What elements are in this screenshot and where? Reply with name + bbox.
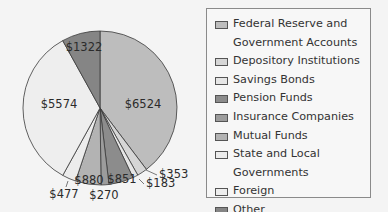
leader-line <box>139 179 144 184</box>
legend-swatch <box>215 151 228 159</box>
legend-swatch <box>215 21 228 29</box>
slice-value-label: $477 <box>49 187 78 201</box>
legend-label: Foreign <box>233 182 274 201</box>
legend-swatch <box>215 77 228 85</box>
legend-item-foreign: Foreign <box>215 182 366 201</box>
legend-label: Mutual Funds <box>233 127 308 146</box>
legend-swatch <box>215 207 228 212</box>
slice-value-label: $851 <box>107 172 136 186</box>
legend-label: Insurance Companies <box>233 108 354 127</box>
legend-item-depository: Depository Institutions <box>215 52 366 71</box>
legend-swatch <box>215 58 228 66</box>
legend-item-state-local: State and Local Governments <box>215 145 366 182</box>
pie-chart: $6524$353$183$851$270$880$477$5574$1322 <box>0 0 200 212</box>
slice-value-label: $183 <box>146 176 175 190</box>
legend-swatch <box>215 133 228 141</box>
legend-swatch <box>215 188 228 196</box>
legend-label: Depository Institutions <box>233 52 360 71</box>
legend: Federal Reserve and Government Accounts … <box>206 8 371 198</box>
legend-item-mutual-funds: Mutual Funds <box>215 127 366 146</box>
legend-label: Other <box>233 201 265 212</box>
legend-item-federal-reserve: Federal Reserve and Government Accounts <box>215 15 366 52</box>
slice-value-label: $5574 <box>41 97 78 111</box>
leader-line <box>146 170 157 175</box>
legend-label: Savings Bonds <box>233 71 315 90</box>
slice-value-label: $270 <box>89 188 118 202</box>
legend-label: Pension Funds <box>233 89 313 108</box>
legend-swatch <box>215 95 228 103</box>
legend-item-savings-bonds: Savings Bonds <box>215 71 366 90</box>
legend-label: State and Local Governments <box>233 145 366 182</box>
legend-item-insurance: Insurance Companies <box>215 108 366 127</box>
legend-swatch <box>215 114 228 122</box>
slice-value-label: $1322 <box>66 40 103 54</box>
legend-item-pension-funds: Pension Funds <box>215 89 366 108</box>
legend-item-other: Other <box>215 201 366 212</box>
slice-value-label: $6524 <box>125 97 162 111</box>
slice-value-label: $880 <box>74 173 103 187</box>
legend-label: Federal Reserve and Government Accounts <box>233 15 357 52</box>
